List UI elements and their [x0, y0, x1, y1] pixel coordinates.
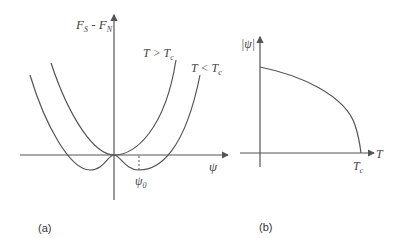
caption-a: (a)	[38, 222, 51, 234]
order-parameter-curve	[260, 67, 361, 153]
x-axis-label-b: T	[376, 147, 384, 161]
curve-below-tc	[30, 75, 200, 170]
label-t-above-tc: T > Tc	[143, 46, 174, 62]
psi0-label: ψ0	[135, 174, 146, 190]
y-axis-label-a: FS - FN	[75, 17, 113, 34]
y-axis-label-b: |ψ|	[241, 37, 255, 51]
tc-label: Tc	[353, 159, 364, 175]
label-t-below-tc: T < Tc	[191, 61, 222, 77]
x-axis-label-a: ψ	[209, 159, 218, 174]
panel-a: FS - FN T > Tc T < Tc ψ ψ0 (a)	[20, 15, 228, 234]
caption-b: (b)	[259, 221, 272, 233]
panel-b: |ψ| T Tc (b)	[240, 37, 384, 233]
figure: FS - FN T > Tc T < Tc ψ ψ0 (a) |ψ| T Tc …	[0, 0, 402, 238]
